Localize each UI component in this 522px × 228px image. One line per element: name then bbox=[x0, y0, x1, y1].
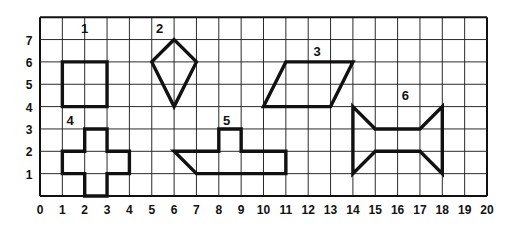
shape-3-label: 3 bbox=[314, 44, 321, 59]
shape-2-label: 2 bbox=[156, 21, 163, 36]
x-tick-label: 5 bbox=[148, 203, 155, 217]
x-tick-label: 14 bbox=[346, 203, 360, 217]
y-tick-label: 4 bbox=[26, 101, 33, 115]
y-tick-label: 3 bbox=[26, 123, 33, 137]
x-tick-label: 17 bbox=[413, 203, 427, 217]
y-axis-tick-labels: 1234567 bbox=[26, 34, 33, 182]
y-tick-label: 6 bbox=[26, 56, 33, 70]
x-tick-label: 12 bbox=[302, 203, 316, 217]
shape-1-label: 1 bbox=[81, 21, 88, 36]
shape-5-label: 5 bbox=[223, 113, 230, 128]
x-tick-label: 3 bbox=[104, 203, 111, 217]
grid-figure-svg: 123456 01234567891011121314151617181920 … bbox=[0, 0, 522, 228]
shape-4 bbox=[62, 129, 129, 196]
x-tick-label: 9 bbox=[238, 203, 245, 217]
worksheet-figure: 123456 01234567891011121314151617181920 … bbox=[0, 0, 522, 228]
x-tick-label: 11 bbox=[280, 203, 293, 217]
shape-polygons bbox=[62, 40, 442, 196]
x-tick-label: 19 bbox=[458, 203, 472, 217]
x-tick-label: 15 bbox=[369, 203, 383, 217]
x-tick-label: 6 bbox=[171, 203, 178, 217]
y-tick-label: 1 bbox=[26, 168, 33, 182]
x-tick-label: 16 bbox=[391, 203, 405, 217]
x-tick-label: 0 bbox=[37, 203, 44, 217]
x-axis-tick-labels: 01234567891011121314151617181920 bbox=[37, 203, 494, 217]
y-tick-label: 7 bbox=[26, 34, 33, 48]
x-tick-label: 13 bbox=[324, 203, 338, 217]
y-tick-label: 2 bbox=[26, 145, 33, 159]
x-tick-label: 1 bbox=[59, 203, 66, 217]
shape-4-label: 4 bbox=[67, 113, 75, 128]
y-tick-label: 5 bbox=[26, 78, 33, 92]
x-tick-label: 20 bbox=[480, 203, 494, 217]
x-tick-label: 18 bbox=[436, 203, 450, 217]
x-tick-label: 2 bbox=[81, 203, 88, 217]
x-tick-label: 7 bbox=[193, 203, 200, 217]
shape-6-label: 6 bbox=[402, 88, 409, 103]
x-tick-label: 4 bbox=[126, 203, 133, 217]
x-tick-label: 10 bbox=[257, 203, 271, 217]
x-tick-label: 8 bbox=[215, 203, 222, 217]
